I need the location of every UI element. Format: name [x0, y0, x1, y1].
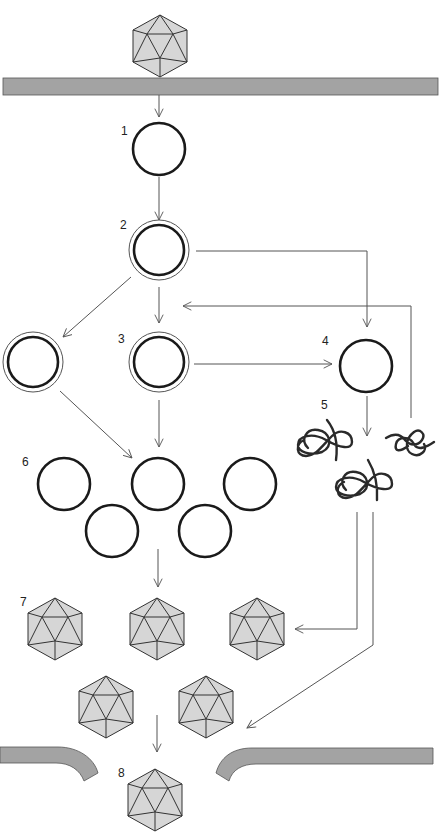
step-label-8: 8 [118, 766, 125, 780]
double-genome-circle-step-3 [129, 332, 189, 392]
step-label-5: 5 [321, 398, 328, 412]
viral-replication-diagram: 1 2 3 4 5 6 [0, 0, 443, 833]
step-label-3: 3 [118, 332, 125, 346]
step-label-6: 6 [22, 455, 29, 469]
tangled-protein-icon-right [386, 431, 434, 455]
arrow-protein-to-capsid [295, 512, 357, 629]
host-cell-membrane-top [3, 78, 438, 95]
step-label-1: 1 [121, 124, 128, 138]
host-cell-membrane-bottom-right [216, 748, 433, 781]
assembled-virions-step-7 [28, 598, 284, 738]
double-genome-circle-step-2 [129, 220, 189, 280]
tangled-protein-icon-center [336, 460, 392, 500]
arrow-2-to-left [63, 277, 131, 337]
arrow-2-to-4 [196, 251, 367, 327]
arrow-protein-feedback [183, 306, 411, 418]
arrow-left-to-6 [60, 391, 132, 458]
step-label-2: 2 [120, 218, 127, 232]
genome-circles-step-6 [38, 458, 276, 557]
step-label-7: 7 [20, 595, 27, 609]
genome-circle-step-4 [340, 340, 392, 392]
double-genome-circle-left [3, 332, 63, 392]
host-cell-membrane-bottom-left [0, 747, 98, 781]
released-virion-step-8 [128, 769, 182, 831]
virion-entry-icon [133, 15, 187, 77]
genome-circle-step-1 [133, 123, 185, 175]
tangled-protein-icon-left [298, 420, 352, 460]
step-label-4: 4 [322, 334, 329, 348]
